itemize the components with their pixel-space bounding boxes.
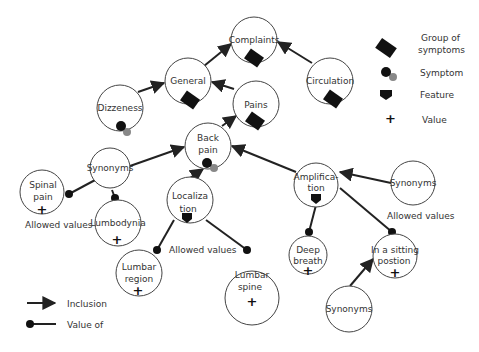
svg-text:Value of: Value of xyxy=(67,320,104,330)
svg-text:Lumbar: Lumbar xyxy=(235,270,270,280)
edge-synonyms-sitting xyxy=(350,259,373,286)
svg-text:Complaints: Complaints xyxy=(229,35,280,45)
svg-text:Localiza: Localiza xyxy=(172,191,208,201)
svg-text:Lumbodynia: Lumbodynia xyxy=(90,218,145,228)
edge-general-complaints xyxy=(204,44,231,66)
svg-text:Symptom: Symptom xyxy=(420,68,463,78)
value-dot xyxy=(153,246,161,254)
svg-text:Inclusion: Inclusion xyxy=(67,299,107,309)
legend-symbols: Group of symptoms Symptom Feature + Valu… xyxy=(375,33,465,126)
value-dot xyxy=(243,246,251,254)
value-icon: + xyxy=(303,263,314,278)
node-dizzeness: Dizzeness xyxy=(97,85,143,136)
edge-spinalpain-synonyms xyxy=(69,179,97,194)
value-icon: + xyxy=(385,111,396,126)
ontology-diagram: Complaints General Circulation Pains Diz… xyxy=(0,0,479,352)
svg-text:General: General xyxy=(170,76,205,86)
node-pains: Pains xyxy=(233,81,279,131)
edge-pains-general xyxy=(212,82,234,89)
svg-text:Spinal: Spinal xyxy=(29,180,57,190)
value-dot xyxy=(305,228,313,236)
svg-text:Lumbar: Lumbar xyxy=(122,262,157,272)
node-localization: Localiza tion xyxy=(167,177,213,223)
svg-text:Value: Value xyxy=(422,115,447,125)
allowed-values-left: Allowed values xyxy=(25,220,93,230)
node-spinal-pain: Spinal pain + xyxy=(20,170,64,217)
legend-edges: Inclusion Value of xyxy=(26,299,107,330)
node-synonyms-right: Synonyms xyxy=(390,161,437,205)
svg-text:Amplifica-: Amplifica- xyxy=(293,172,338,182)
svg-text:pain: pain xyxy=(198,145,217,155)
svg-text:Group of: Group of xyxy=(421,33,461,43)
node-complaints: Complaints xyxy=(229,17,280,68)
node-general: General xyxy=(165,58,211,110)
node-deep-breath: Deep breath + xyxy=(289,236,327,278)
node-synonyms-bottom: Synonyms xyxy=(326,286,373,332)
node-sitting-position: In a sitting postion + xyxy=(371,234,419,280)
svg-text:Synonyms: Synonyms xyxy=(390,178,437,188)
svg-text:Circulation: Circulation xyxy=(306,76,354,86)
svg-text:tion: tion xyxy=(179,204,196,214)
edge-amplification-backpain xyxy=(232,146,296,172)
svg-text:Back: Back xyxy=(197,133,220,143)
value-icon: + xyxy=(37,202,48,217)
edge-sitting-amplification xyxy=(340,188,392,232)
value-icon: + xyxy=(112,232,123,247)
edge-circulation-complaints xyxy=(278,42,312,63)
node-back-pain: Back pain xyxy=(185,123,231,172)
svg-text:In a sitting: In a sitting xyxy=(371,245,419,255)
edge-deepbreath-amplification xyxy=(309,205,316,232)
symptom-icon xyxy=(381,67,397,81)
edge-synonyms-amplification xyxy=(340,172,391,183)
svg-text:Feature: Feature xyxy=(420,90,454,100)
node-lumbodynia: Lumbodynia + xyxy=(90,200,145,247)
value-dot-icon xyxy=(26,320,34,328)
group-of-symptoms-icon xyxy=(375,38,397,58)
value-icon: + xyxy=(133,283,144,298)
edge-dizzeness-general xyxy=(138,83,164,92)
svg-text:Dizzeness: Dizzeness xyxy=(97,103,142,113)
value-dot xyxy=(65,190,73,198)
svg-text:symptoms: symptoms xyxy=(418,45,465,55)
svg-text:tion: tion xyxy=(307,183,324,193)
allowed-values-middle: Allowed values xyxy=(169,245,237,255)
svg-text:Synonyms: Synonyms xyxy=(87,163,134,173)
svg-text:Synonyms: Synonyms xyxy=(326,304,373,314)
value-icon: + xyxy=(247,294,258,309)
edge-backpain-pains xyxy=(222,116,236,126)
svg-text:spine: spine xyxy=(238,282,263,292)
node-amplification: Amplifica- tion xyxy=(293,163,338,207)
node-circulation: Circulation xyxy=(306,58,354,109)
node-lumbar-region: Lumbar region + xyxy=(116,250,162,298)
feature-icon xyxy=(380,90,392,100)
svg-text:pain: pain xyxy=(33,192,52,202)
svg-text:Pains: Pains xyxy=(244,100,268,110)
allowed-values-right: Allowed values xyxy=(387,211,455,221)
edge-synonyms-backpain xyxy=(130,147,184,166)
svg-text:Deep: Deep xyxy=(296,245,320,255)
value-icon: + xyxy=(390,265,401,280)
node-lumbar-spine: Lumbar spine + xyxy=(225,270,279,325)
node-synonyms-left: Synonyms xyxy=(87,148,134,188)
